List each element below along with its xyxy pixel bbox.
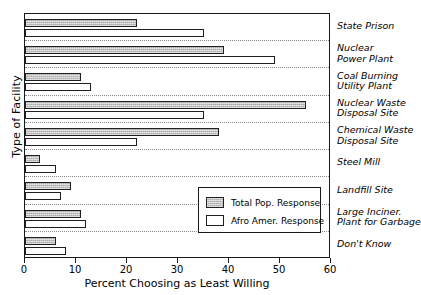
bar-total (25, 46, 224, 54)
bar-group (25, 123, 329, 150)
legend-item-total: Total Pop. Response (206, 196, 320, 209)
legend: Total Pop. Response Afro Amer. Response (198, 187, 321, 233)
bar-total (25, 19, 137, 27)
bar-afro (25, 220, 86, 228)
legend-item-afro: Afro Amer. Response (206, 214, 324, 227)
category-label: Chemical Waste Disposal Site (337, 125, 421, 146)
bar-afro (25, 111, 204, 119)
y-axis-title: Type of Facility (10, 52, 23, 182)
x-tick (279, 258, 280, 263)
bar-total (25, 182, 71, 190)
legend-label-afro: Afro Amer. Response (231, 216, 324, 226)
bar-group (25, 14, 329, 41)
legend-label-total: Total Pop. Response (231, 198, 320, 208)
bar-total (25, 101, 306, 109)
bar-total (25, 128, 219, 136)
category-label: Steel Mill (337, 157, 421, 168)
category-label: Nuclear Power Plant (337, 43, 421, 64)
x-tick (330, 258, 331, 263)
category-label: Nuclear Waste Disposal Site (337, 98, 421, 119)
x-tick-label: 50 (273, 264, 286, 275)
x-tick (24, 258, 25, 263)
bar-group (25, 150, 329, 177)
category-label: Coal Burning Utility Plant (337, 71, 421, 92)
bar-group (25, 68, 329, 95)
bar-chart: Type of Facility 0102030405060 Percent C… (0, 0, 421, 295)
x-tick (75, 258, 76, 263)
legend-swatch-afro-icon (206, 215, 224, 226)
bar-group (25, 41, 329, 68)
x-tick-label: 10 (69, 264, 82, 275)
bar-total (25, 73, 81, 81)
bar-group (25, 232, 329, 259)
bar-total (25, 210, 81, 218)
bar-afro (25, 165, 56, 173)
category-label: Don't Know (337, 239, 421, 250)
x-tick-label: 60 (324, 264, 337, 275)
x-tick-label: 40 (222, 264, 235, 275)
x-tick (177, 258, 178, 263)
legend-swatch-total-icon (206, 197, 224, 208)
category-label: Landfill Site (337, 185, 421, 196)
bar-afro (25, 247, 66, 255)
x-tick-label: 0 (21, 264, 27, 275)
bar-afro (25, 56, 275, 64)
category-label: Large Inciner. Plant for Garbage (337, 207, 421, 228)
bar-afro (25, 29, 204, 37)
bar-afro (25, 138, 137, 146)
x-axis: 0102030405060 (24, 258, 330, 259)
x-tick-label: 20 (120, 264, 133, 275)
category-labels: State PrisonNuclear Power PlantCoal Burn… (337, 13, 421, 258)
bar-group (25, 96, 329, 123)
bar-afro (25, 192, 61, 200)
x-axis-title: Percent Choosing as Least Willing (24, 277, 330, 290)
category-label: State Prison (337, 21, 421, 32)
bar-total (25, 155, 40, 163)
bar-total (25, 237, 56, 245)
x-tick (228, 258, 229, 263)
x-tick-label: 30 (171, 264, 184, 275)
bar-afro (25, 83, 91, 91)
x-tick (126, 258, 127, 263)
